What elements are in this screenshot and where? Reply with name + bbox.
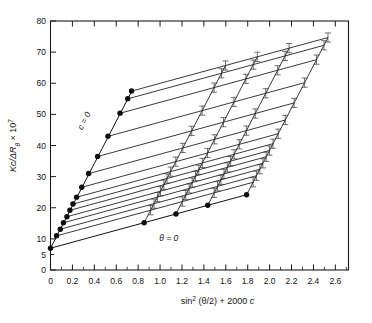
x-tick-label: 0 — [48, 276, 53, 286]
x-tick-label: 2.2 — [286, 276, 298, 286]
c-zero-data-point — [54, 233, 59, 238]
y-tick-label: 30 — [37, 172, 47, 182]
x-tick-label: 1.6 — [220, 276, 232, 286]
x-axis-title-sin: sin — [181, 296, 193, 306]
y-tick-label: 70 — [37, 47, 47, 57]
x-tick-label: 1.4 — [198, 276, 210, 286]
c-zero-data-point — [125, 96, 130, 101]
plot-canvas: 00.20.40.60.81.01.21.41.61.82.02.22.42.6… — [0, 0, 372, 323]
x-tick-label: 1.2 — [176, 276, 188, 286]
c-zero-data-point — [117, 110, 122, 115]
y-tick-label: 40 — [37, 141, 47, 151]
x-axis-title-conc-symbol: c — [250, 296, 255, 306]
c-zero-data-point — [70, 201, 75, 206]
x-tick-label: 0.6 — [110, 276, 122, 286]
annotation-theta-zero: θ = 0 — [159, 233, 178, 243]
theta-zero-data-point — [244, 192, 249, 197]
c-zero-data-point — [67, 208, 72, 213]
y-tick-label: 0 — [41, 265, 46, 275]
x-axis-title-rest: (θ/2) + 2000 — [196, 296, 250, 306]
y-axis-title-tail: × 10 — [8, 123, 18, 143]
c-zero-data-point — [86, 171, 91, 176]
x-tick-label: 0.4 — [88, 276, 100, 286]
y-tick-label: 60 — [37, 78, 47, 88]
c-zero-data-point — [58, 227, 63, 232]
x-tick-label: 1.8 — [242, 276, 254, 286]
y-axis-title-main: Kc/ΔR — [8, 146, 18, 172]
x-tick-label: 2.4 — [308, 276, 320, 286]
y-tick-label: 50 — [37, 109, 47, 119]
c-zero-data-point — [95, 154, 100, 159]
y-tick-label: 10 — [37, 234, 47, 244]
c-zero-data-point — [79, 185, 84, 190]
x-axis-title: sin2 (θ/2) + 2000 c — [181, 295, 255, 307]
x-tick-label: 1.0 — [154, 276, 166, 286]
y-tick-label: 5 — [41, 250, 46, 260]
x-tick-label: 2.6 — [329, 276, 341, 286]
c-zero-data-point — [74, 194, 79, 199]
theta-zero-data-point — [141, 220, 146, 225]
y-axis-title-exponent: 7 — [7, 119, 14, 123]
zimm-plot-figure: 00.20.40.60.81.01.21.41.61.82.02.22.42.6… — [0, 0, 372, 323]
c-zero-data-point — [129, 88, 134, 93]
c-zero-data-point — [61, 220, 66, 225]
theta-zero-data-point — [173, 211, 178, 216]
c-zero-data-point — [64, 214, 69, 219]
y-axis-tick-labels: 051020304050607080 — [37, 16, 47, 275]
x-tick-label: 0.8 — [132, 276, 144, 286]
c-zero-data-point — [48, 246, 53, 251]
y-tick-label: 20 — [37, 203, 47, 213]
x-tick-label: 0.2 — [66, 276, 78, 286]
y-tick-label: 80 — [37, 16, 47, 26]
c-zero-data-point — [105, 133, 110, 138]
theta-zero-data-point — [205, 203, 210, 208]
x-tick-label: 2.0 — [264, 276, 276, 286]
